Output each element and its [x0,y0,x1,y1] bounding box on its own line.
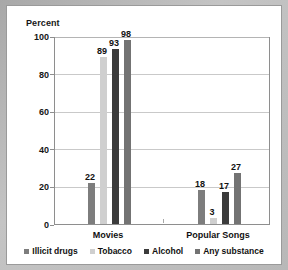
bar [88,183,95,224]
legend-item: Alcohol [144,246,183,256]
bar [222,192,229,224]
legend-label: Alcohol [152,246,183,256]
category-label: Popular Songs [186,230,250,240]
bar [124,40,131,224]
category-label: Movies [93,230,124,240]
bar-value-label: 3 [209,207,214,217]
bar [234,173,241,224]
gridline [55,74,269,75]
legend-item: Tobacco [90,246,132,256]
bar [198,190,205,224]
y-tick-label: 80 [23,70,49,80]
legend-item: Any substance [195,246,263,256]
y-tick-label: 40 [23,145,49,155]
chart-legend: Illicit drugsTobaccoAlcoholAny substance [7,246,281,256]
y-tick-label: 100 [23,32,49,42]
bar-value-label: 18 [195,179,205,189]
category-separator-tick [163,219,164,223]
gridline [55,112,269,113]
y-axis-tick-labels: 020406080100 [19,37,49,225]
y-tick-label: 20 [23,182,49,192]
bar-value-label: 22 [85,172,95,182]
gridline [55,149,269,150]
legend-label: Tobacco [98,246,132,256]
bar-value-label: 93 [109,38,119,48]
y-axis-title: Percent [26,18,60,28]
y-tick-label: 60 [23,107,49,117]
chart-panel: Percent 020406080100 22899398Movies18317… [7,6,281,264]
bar-value-label: 98 [121,29,131,39]
legend-label: Any substance [203,246,263,256]
bar [100,57,107,224]
bar-value-label: 17 [219,181,229,191]
legend-swatch-icon [90,249,95,254]
bar-value-label: 27 [231,162,241,172]
bar-value-label: 89 [97,46,107,56]
legend-swatch-icon [195,249,200,254]
bar-chart: Percent 020406080100 22899398Movies18317… [7,6,281,264]
legend-item: Illicit drugs [24,246,77,256]
bar [210,218,217,224]
gridline [55,37,269,38]
y-tick-label: 0 [23,220,49,230]
legend-swatch-icon [144,249,149,254]
bar [112,49,119,224]
image-background: Percent 020406080100 22899398Movies18317… [0,0,288,270]
legend-swatch-icon [24,249,29,254]
plot-area [54,37,270,225]
legend-label: Illicit drugs [32,246,77,256]
